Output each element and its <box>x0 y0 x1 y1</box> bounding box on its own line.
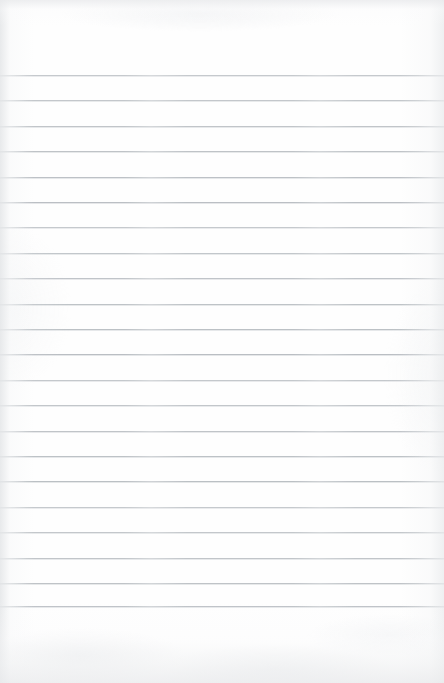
rule-line <box>0 583 444 584</box>
rule-line <box>0 558 444 559</box>
rule-line <box>0 532 444 533</box>
rule-line <box>0 75 444 76</box>
rule-line <box>0 481 444 482</box>
rule-line <box>0 456 444 457</box>
rule-line <box>0 507 444 508</box>
rule-line <box>0 405 444 406</box>
rule-line <box>0 431 444 432</box>
rule-line <box>0 606 444 607</box>
rule-line <box>0 126 444 127</box>
ruled-lines-group <box>0 0 444 683</box>
rule-line <box>0 177 444 178</box>
scanned-page: Blank Ruled Notebook Page <box>0 0 444 683</box>
rule-line <box>0 253 444 254</box>
rule-line <box>0 202 444 203</box>
rule-line <box>0 304 444 305</box>
rule-line <box>0 278 444 279</box>
rule-line <box>0 100 444 101</box>
rule-line <box>0 329 444 330</box>
rule-line <box>0 354 444 355</box>
rule-line <box>0 227 444 228</box>
rule-line <box>0 380 444 381</box>
rule-line <box>0 151 444 152</box>
